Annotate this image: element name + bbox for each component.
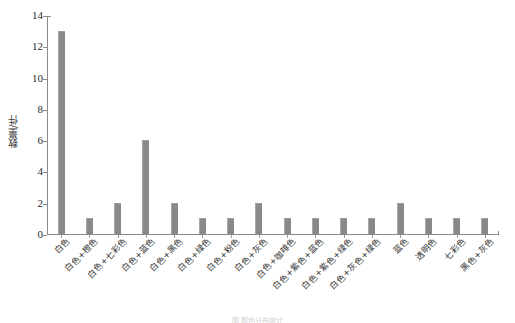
- bar: [481, 218, 488, 234]
- y-tick-mark: [43, 47, 47, 48]
- x-tick-label: 蓝色: [391, 236, 411, 256]
- y-tick-label: 12: [32, 40, 43, 53]
- y-tick-mark: [43, 79, 47, 80]
- bar: [368, 218, 375, 234]
- y-tick-mark: [43, 204, 47, 205]
- bar: [425, 218, 432, 234]
- y-axis-line: [47, 16, 48, 235]
- x-tick-label: 白色: [52, 236, 72, 256]
- y-tick-label: 14: [32, 9, 43, 22]
- y-axis-top-cap: [47, 16, 51, 17]
- y-tick-mark: [43, 16, 47, 17]
- y-tick-label: 0: [38, 228, 44, 241]
- bar: [255, 203, 262, 234]
- plot-area: 02468101214: [47, 16, 499, 235]
- y-tick-mark: [43, 110, 47, 111]
- bar: [453, 218, 460, 234]
- x-tick-label: 透明色: [413, 236, 439, 262]
- bar: [397, 203, 404, 234]
- bar: [86, 218, 93, 234]
- bar-chart-figure: 数量/件 02468101214 白色白色+橙色白色+七彩色白色+蓝色白色+黑色…: [0, 0, 515, 323]
- y-tick-label: 4: [38, 165, 44, 178]
- figure-caption: 图 颜色分布统计: [0, 317, 515, 323]
- bar: [58, 31, 65, 234]
- y-tick-label: 10: [32, 72, 43, 85]
- bar: [340, 218, 347, 234]
- x-axis-tick-labels: 白色白色+橙色白色+七彩色白色+蓝色白色+黑色白色+绿色白色+粉色白色+灰色白色…: [47, 236, 515, 316]
- bar: [142, 140, 149, 234]
- x-tick-label: 白色+灰色+绿色: [328, 236, 383, 291]
- y-tick-mark: [43, 172, 47, 173]
- y-tick-label: 8: [38, 103, 44, 116]
- x-axis-right-cap: [498, 231, 499, 235]
- y-axis-title: 数量/件: [6, 96, 22, 166]
- x-tick-label: 白色+紫色+蓝色: [271, 236, 326, 291]
- y-tick-mark: [43, 141, 47, 142]
- bar: [199, 218, 206, 234]
- bar: [114, 203, 121, 234]
- bar: [171, 203, 178, 234]
- y-tick-label: 2: [38, 197, 44, 210]
- x-tick-label: 七彩色: [442, 236, 468, 262]
- bar: [227, 218, 234, 234]
- y-tick-label: 6: [38, 134, 44, 147]
- bar: [312, 218, 319, 234]
- bar: [284, 218, 291, 234]
